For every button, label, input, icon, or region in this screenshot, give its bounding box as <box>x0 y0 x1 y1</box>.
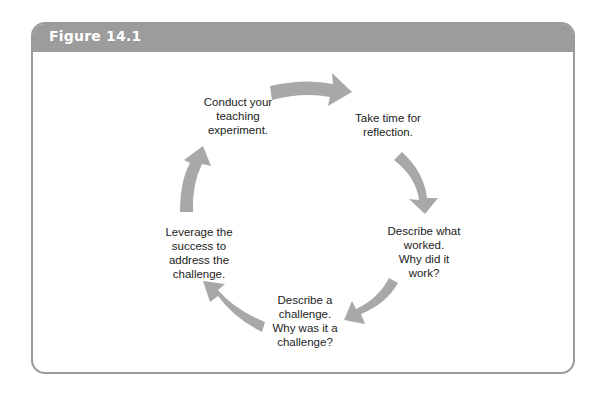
node-describe-challenge: Describe a challenge. Why was it a chall… <box>255 293 355 349</box>
node-conduct-experiment: Conduct your teaching experiment. <box>190 95 286 137</box>
node-take-time-reflection: Take time for reflection. <box>340 111 436 139</box>
node-describe-what-worked: Describe what worked. Why did it work? <box>374 224 474 280</box>
cycle-diagram: Conduct your teaching experiment. Take t… <box>0 0 606 400</box>
arrow-leverage-to-conduct-icon <box>180 146 211 212</box>
arrow-reflect-to-worked-icon <box>394 152 438 214</box>
node-leverage-success: Leverage the success to address the chal… <box>149 225 249 281</box>
